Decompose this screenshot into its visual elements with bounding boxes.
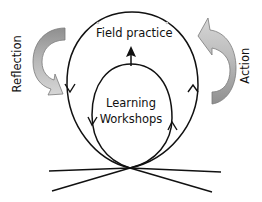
action-arrow-icon — [198, 18, 236, 104]
action-label: Action — [240, 46, 252, 86]
reflection-label: Reflection — [12, 34, 24, 94]
up-arrow-icon — [126, 46, 136, 66]
base-lines — [49, 168, 221, 192]
inner-right-up-arrow-icon — [168, 122, 177, 130]
diagram-canvas: Field practice Learning Workshops Reflec… — [0, 0, 262, 202]
outer-loop-dot-left — [97, 22, 100, 25]
outer-loop-dot-right — [166, 22, 169, 25]
workshops-label: Workshops — [94, 114, 168, 126]
reflection-arrow-icon — [33, 28, 65, 95]
outer-right-up-arrow-icon — [188, 85, 198, 92]
base-line-left-lower — [52, 168, 130, 191]
learning-label: Learning — [98, 98, 164, 110]
base-line-left-upper — [49, 168, 130, 171]
field-practice-label: Field practice — [96, 28, 168, 40]
